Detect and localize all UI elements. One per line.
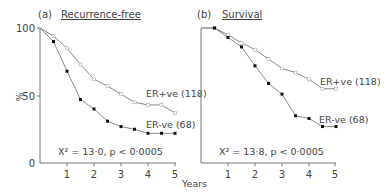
data-point [52, 35, 55, 38]
data-point [335, 87, 338, 90]
data-point [160, 132, 163, 135]
data-point [267, 82, 270, 85]
panel-b-label: (b) [197, 9, 211, 20]
data-point [106, 85, 109, 88]
svg-text:5: 5 [172, 169, 178, 180]
panel-b-stat: X² = 13·8, p < 0·0005 [219, 146, 324, 157]
data-point [227, 36, 230, 39]
svg-text:1: 1 [225, 169, 231, 180]
panel-a-xtick-labels: 12345 [64, 169, 178, 180]
panel-b-series [201, 27, 338, 129]
data-point [147, 132, 150, 135]
data-point [267, 58, 270, 61]
data-point [240, 41, 243, 44]
data-point [321, 125, 324, 128]
svg-text:3: 3 [279, 169, 285, 180]
data-point [281, 93, 284, 96]
data-point [106, 120, 109, 123]
x-axis-label: Years [181, 178, 207, 189]
panel-b-axes [198, 28, 336, 163]
panel-b-erpos-label: ER+ve (118) [320, 76, 381, 87]
data-point [254, 64, 257, 67]
data-point [174, 132, 177, 135]
panel-a-label: (a) [38, 9, 52, 20]
data-point [281, 67, 284, 70]
data-point [79, 63, 82, 66]
data-point [133, 128, 136, 131]
data-point [213, 27, 216, 30]
data-point [147, 103, 150, 106]
panel-b-title: Survival [222, 9, 262, 20]
chart-canvas: 100 50 0 % 12345 (a) Recurrence-free ER+… [0, 0, 385, 196]
y-axis-label: % [15, 92, 25, 101]
svg-text:2: 2 [252, 169, 258, 180]
data-point [294, 114, 297, 117]
svg-text:4: 4 [145, 169, 151, 180]
data-point [120, 93, 123, 96]
y-tick-100: 100 [16, 23, 35, 34]
data-point [335, 125, 338, 128]
panel-a-erpos-label: ER+ve (118) [146, 88, 207, 99]
panel-a-title: Recurrence-free [61, 9, 141, 20]
data-point [294, 71, 297, 74]
data-point [308, 78, 311, 81]
svg-text:1: 1 [64, 169, 70, 180]
svg-text:4: 4 [306, 169, 312, 180]
figure: 100 50 0 % 12345 (a) Recurrence-free ER+… [0, 0, 385, 196]
data-point [321, 87, 324, 90]
data-point [66, 70, 69, 73]
y-tick-0: 0 [29, 158, 35, 169]
data-point [93, 108, 96, 111]
er-positive-line [40, 28, 175, 113]
er-negative-line [40, 28, 175, 133]
panel-a-erneg-label: ER-ve (68) [146, 119, 195, 130]
svg-text:5: 5 [332, 169, 338, 180]
data-point [254, 48, 257, 51]
panel-b-xtick-labels: 12345 [225, 169, 338, 180]
data-point [52, 40, 55, 43]
svg-text:3: 3 [118, 169, 124, 180]
data-point [240, 45, 243, 48]
panel-b-erneg-label: ER-ve (68) [319, 114, 368, 125]
data-point [66, 47, 69, 50]
er-negative-line [201, 28, 336, 127]
panel-a-stat: X² = 13·0, p < 0·0005 [58, 146, 163, 157]
data-point [93, 78, 96, 81]
data-point [308, 117, 311, 120]
data-point [133, 101, 136, 104]
data-point [79, 98, 82, 101]
data-point [174, 112, 177, 115]
data-point [227, 33, 230, 36]
data-point [160, 103, 163, 106]
svg-text:2: 2 [91, 169, 97, 180]
data-point [120, 125, 123, 128]
